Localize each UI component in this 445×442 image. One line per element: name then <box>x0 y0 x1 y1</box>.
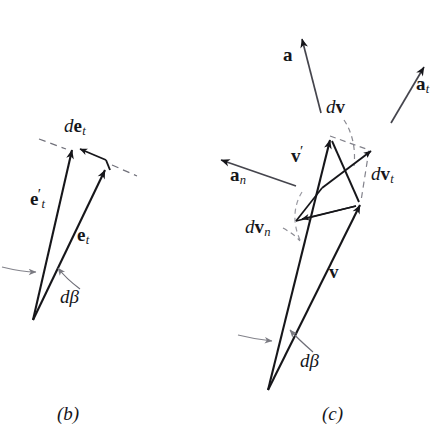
d-v-n-leader <box>283 228 300 241</box>
label-e-t: et <box>77 225 89 246</box>
label-v: v <box>329 262 339 281</box>
tangent-dash-right <box>112 165 137 176</box>
label-a-n: an <box>230 165 246 186</box>
vector-v-prime <box>268 140 330 390</box>
label-e-t-prime: e′t <box>30 186 45 210</box>
angle-indicator-arrow-c <box>238 335 272 341</box>
label-a-t: at <box>416 74 429 95</box>
label-d-beta-b: dβ <box>60 287 79 306</box>
label-v-prime: v′ <box>291 143 303 165</box>
figure-root: det e′t et dβ (b) a at dv v′ dvt an dvn … <box>0 0 445 442</box>
caption-b: (b) <box>57 404 79 423</box>
panel-c-drawing <box>221 39 424 390</box>
vector-d-v <box>332 141 359 202</box>
label-a: a <box>283 45 293 64</box>
vector-d-v-n <box>302 206 356 219</box>
label-d-e-t: det <box>64 116 86 137</box>
caption-c: (c) <box>322 404 343 423</box>
vector-d-e-t <box>80 149 106 160</box>
label-d-v-t: dvt <box>371 164 394 185</box>
figure-canvas <box>0 0 445 442</box>
d-v-leader <box>344 120 355 166</box>
tangent-dash-left <box>39 139 66 149</box>
angle-indicator-arrow-b <box>2 267 36 272</box>
label-d-v-n: dvn <box>245 217 271 238</box>
vector-d-e-t-stub <box>106 160 110 170</box>
label-d-beta-c: dβ <box>300 351 319 370</box>
label-d-v: dv <box>326 97 345 116</box>
vector-a <box>302 39 321 113</box>
parallelogram-dashed-edges <box>330 136 369 201</box>
